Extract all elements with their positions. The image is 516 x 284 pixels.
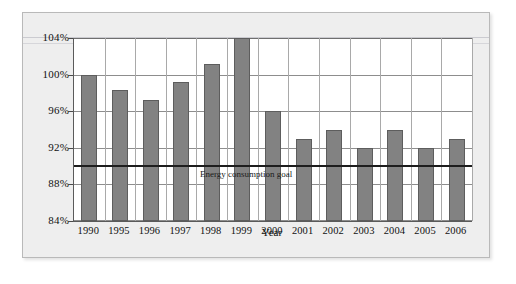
gridline-vertical	[441, 38, 442, 221]
y-axis-tick-label: 88%	[48, 177, 69, 189]
gridline-vertical	[196, 38, 197, 221]
gridline-vertical	[105, 38, 106, 221]
gridline-vertical	[380, 38, 381, 221]
gridline-vertical	[288, 38, 289, 221]
gridline-vertical	[411, 38, 412, 221]
x-axis-tick-label: 2004	[379, 225, 410, 236]
bar[interactable]	[418, 148, 434, 221]
y-axis-tick-label: 84%	[48, 214, 69, 226]
bar[interactable]	[357, 148, 373, 221]
gridline-vertical	[227, 38, 228, 221]
y-axis: 84%88%92%96%100%104%	[23, 13, 69, 257]
bar[interactable]	[204, 64, 220, 221]
bar[interactable]	[326, 130, 342, 222]
gridline-horizontal	[74, 75, 472, 76]
gridline-vertical	[472, 38, 473, 221]
bar[interactable]	[296, 139, 312, 221]
bar[interactable]	[234, 38, 250, 221]
bar[interactable]	[112, 90, 128, 221]
bar[interactable]	[387, 130, 403, 222]
x-axis-tick-label: 2005	[410, 225, 441, 236]
x-axis-tick-label: 1998	[195, 225, 226, 236]
bar[interactable]	[449, 139, 465, 221]
x-axis-tick-label: 1990	[73, 225, 104, 236]
goal-line	[74, 165, 472, 167]
gridline-vertical	[319, 38, 320, 221]
x-axis-tick-label: 2002	[318, 225, 349, 236]
bar[interactable]	[81, 75, 97, 221]
bar[interactable]	[143, 100, 159, 221]
x-axis-tick-label: 2006	[440, 225, 471, 236]
bar[interactable]	[173, 82, 189, 221]
x-axis-tick-label: 1995	[104, 225, 135, 236]
gridline-vertical	[258, 38, 259, 221]
x-axis-tick-label: 2001	[287, 225, 318, 236]
plot-area: Energy consumption goal	[73, 38, 472, 222]
chart-panel: 84%88%92%96%100%104% Energy consumption …	[22, 12, 490, 258]
gridline-vertical	[350, 38, 351, 221]
gridline-vertical	[135, 38, 136, 221]
y-axis-tick-label: 104%	[43, 31, 69, 43]
x-axis-tick-label: 1996	[134, 225, 165, 236]
x-axis-tick-label: 1997	[165, 225, 196, 236]
y-axis-tick-label: 96%	[48, 104, 69, 116]
x-axis-tick-label: 1999	[226, 225, 257, 236]
y-axis-tick-label: 100%	[43, 68, 69, 80]
goal-line-label: Energy consumption goal	[200, 169, 292, 179]
x-axis-tick-label: 2000	[257, 225, 288, 236]
y-axis-tick-label: 92%	[48, 141, 69, 153]
gridline-horizontal	[74, 38, 472, 39]
gridline-vertical	[166, 38, 167, 221]
x-axis-tick-label: 2003	[349, 225, 380, 236]
